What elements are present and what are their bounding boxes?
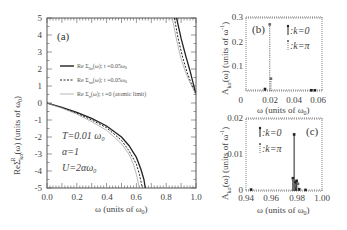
ytick: 0.2	[232, 37, 243, 47]
ytick: -2	[35, 132, 43, 142]
xtick: 0.94	[238, 193, 254, 203]
figure: 5 4 3 2 1 0 -1 -2 -3 -4 -5 0.0 0.2 0.4 0…	[0, 0, 347, 230]
ytick: -4	[35, 166, 43, 176]
legend-k0-dot	[287, 25, 289, 27]
legend-kpi-dot	[259, 143, 261, 145]
xtick: 0.0	[41, 192, 53, 202]
annotation-temperature: T=0.01 ω0	[62, 130, 104, 142]
xtick: 0.04	[286, 95, 302, 105]
legend-item-2: Re Σσ(ω); t =0 (atomic limit)	[77, 91, 146, 99]
panel-c-legend: :k=0 :k=π	[259, 127, 283, 154]
xtick: 1.00	[314, 193, 330, 203]
xtick: 0.96	[263, 193, 279, 203]
xtick: 0.6	[130, 192, 142, 202]
panel-b-xlabel: ω (units of ω0)	[257, 105, 310, 116]
xtick: 0.4	[101, 192, 113, 202]
ytick: -1	[35, 115, 43, 125]
ytick: 0.1	[232, 61, 243, 71]
curve-k0-upper	[177, 18, 196, 95]
panel-b-ylabel: Akσ(ω) (units of ω-1)	[219, 22, 232, 95]
legend-kpi: :k=π	[290, 40, 311, 51]
ytick: -3	[35, 149, 43, 159]
ytick: 4	[38, 30, 43, 40]
legend-kpi-dot	[287, 40, 289, 42]
legend-k0-dot	[259, 127, 261, 129]
xtick: 0.2	[71, 192, 82, 202]
legend-k0: :k=0	[290, 25, 310, 36]
ytick: 0.3	[232, 12, 244, 22]
panel-a: 5 4 3 2 1 0 -1 -2 -3 -4 -5 0.0 0.2 0.4 0…	[10, 13, 202, 215]
panel-a-label: (a)	[57, 30, 70, 43]
panel-c: 0.02 0.01 0 0.94 0.96 0.98 1.00 ω (units…	[219, 113, 330, 216]
panel-a-annotations: T=0.01 ω0 α=1 U=2αω0	[62, 130, 104, 174]
ytick: 5	[38, 13, 43, 23]
ytick: 0	[38, 98, 43, 108]
legend-k0: :k=0	[262, 127, 282, 138]
xtick: 0.98	[289, 193, 305, 203]
curve-atomic	[47, 103, 139, 188]
ytick: 0	[239, 95, 244, 105]
annotation-U: U=2αω0	[62, 162, 96, 174]
panel-c-ylabel: Akσ(ω) (units of ω-1)	[219, 127, 232, 200]
legend-item-0: Re Σ0σ(ω); t =0.05ω0	[77, 63, 127, 71]
xtick: 0.02	[262, 95, 278, 105]
xtick: 1.0	[190, 192, 202, 202]
ytick: 2	[38, 64, 43, 74]
xtick: 0.06	[310, 95, 326, 105]
panel-a-yticklabels: 5 4 3 2 1 0 -1 -2 -3 -4 -5	[35, 13, 43, 193]
legend-item-1: Re Σπσ(ω); t =0.05ω0	[77, 77, 127, 85]
panel-a-xlabel: ω (units of ω0)	[95, 204, 148, 215]
panel-a-xticklabels: 0.0 0.2 0.4 0.6 0.8 1.0	[41, 192, 202, 202]
panel-b: 0.3 0.2 0.1 0 0.02 0.04 0.06 ω (units of…	[219, 12, 326, 116]
panel-a-ylabel: ReΣkσR(ω) (units of ω0)	[10, 96, 24, 175]
ytick: 1	[38, 81, 43, 91]
annotation-alpha: α=1	[62, 146, 79, 157]
ytick: 3	[38, 47, 43, 57]
curve-atomic-upper	[172, 18, 196, 95]
xtick: 0.8	[160, 192, 172, 202]
panel-c-bars	[250, 133, 307, 191]
panel-b-legend: :k=0 :k=π	[287, 25, 311, 51]
ytick: 0.02	[227, 113, 243, 123]
legend-kpi: :k=π	[262, 143, 283, 154]
panel-b-label: (b)	[252, 23, 265, 36]
panel-a-legend: Re Σ0σ(ω); t =0.05ω0 Re Σπσ(ω); t =0.05ω…	[60, 63, 146, 99]
panel-c-xlabel: ω (units of ω0)	[257, 205, 310, 216]
panel-c-label: (c)	[306, 125, 319, 138]
